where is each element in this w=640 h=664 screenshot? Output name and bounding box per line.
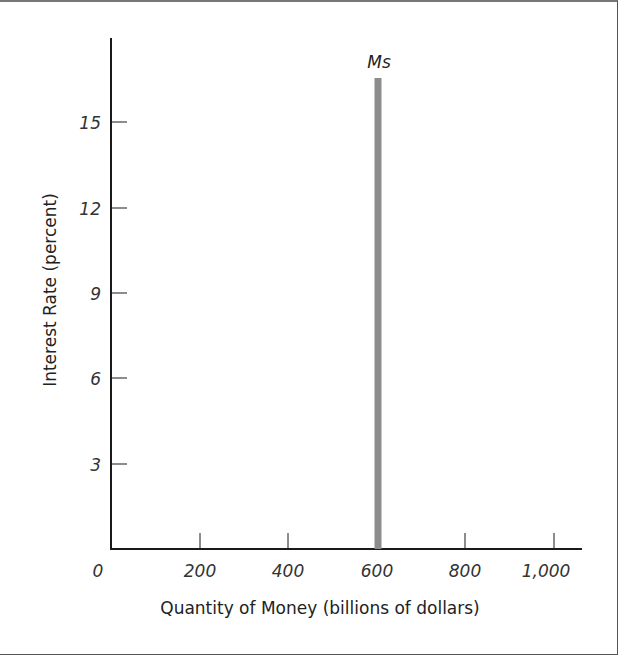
x-tick-label: 800 (449, 561, 481, 581)
money-supply-chart: Ms 15 12 9 6 3 0 200 400 600 800 1,000 Q… (0, 0, 640, 664)
y-tick-label: 15 (79, 113, 101, 133)
x-tick-label: 200 (184, 561, 216, 581)
x-tick-labels: 0 200 400 600 800 1,000 (93, 561, 571, 581)
y-axis-title: Interest Rate (percent) (40, 193, 60, 387)
y-tick-label: 12 (79, 199, 101, 219)
x-tick-label: 1,000 (522, 561, 571, 581)
x-tick-label: 0 (93, 561, 104, 581)
y-tick-labels: 15 12 9 6 3 (79, 113, 101, 475)
x-tick-label: 400 (272, 561, 304, 581)
x-axis-title: Quantity of Money (billions of dollars) (160, 598, 480, 618)
y-tick-label: 6 (90, 369, 101, 389)
money-supply-label: Ms (367, 52, 391, 72)
y-tick-label: 9 (90, 284, 101, 304)
y-ticks (111, 122, 127, 464)
y-tick-label: 3 (90, 455, 101, 475)
x-tick-label: 600 (361, 561, 393, 581)
